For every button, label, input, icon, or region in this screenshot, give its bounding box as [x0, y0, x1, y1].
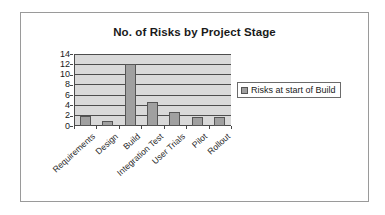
legend-swatch-icon	[241, 87, 248, 94]
legend-entry-label: Risks at start of Build	[251, 85, 336, 95]
chart-container: No. of Risks by Project Stage 0246810121…	[20, 12, 369, 202]
x-axis-labels: RequirementsDesignBuildIntegration TestU…	[21, 13, 368, 201]
x-axis-tick-label: Requirements	[51, 132, 97, 174]
x-axis-tick-label: Rollout	[206, 132, 232, 157]
chart-legend: Risks at start of Build	[237, 82, 341, 98]
x-axis-tick-label: Design	[94, 132, 120, 157]
